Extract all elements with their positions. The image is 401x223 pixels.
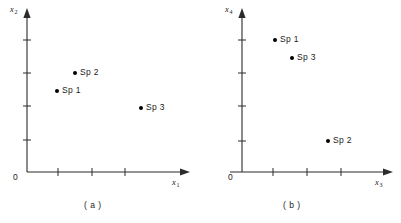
panel-b-axes [200,0,401,200]
data-point-sp1-a [55,89,59,93]
data-point-label-sp3-b: Sp 3 [297,52,316,62]
panel-a-caption: ( a ) [84,200,102,210]
panel-b-x-axis-label: x3 [375,177,382,187]
data-point-sp2-a [73,71,77,75]
panel-b-caption: ( b ) [283,200,301,210]
data-point-label-sp1-a: Sp 1 [62,85,81,95]
data-point-sp1-b [273,38,277,42]
data-point-label-sp3-a: Sp 3 [146,102,165,112]
panel-a-x-axis-label: x1 [172,177,179,187]
panel-a-origin-label: 0 [13,172,18,182]
panel-b-origin-label: 0 [228,172,233,182]
data-point-sp2-b [326,139,330,143]
data-point-sp3-a [139,106,143,110]
two-panel-scatter-figure: x2 x1 0 Sp 1 Sp 2 Sp 3 ( a ) [0,0,401,223]
data-point-sp3-b [290,56,294,60]
panel-b-y-axis-label: x4 [225,4,232,14]
data-point-label-sp1-b: Sp 1 [280,34,299,44]
panel-b: x4 x3 0 Sp 1 Sp 3 Sp 2 ( b ) [200,0,401,223]
panel-a: x2 x1 0 Sp 1 Sp 2 Sp 3 ( a ) [0,0,200,223]
panel-a-axes [0,0,200,200]
panel-a-y-axis-label: x2 [10,4,17,14]
data-point-label-sp2-b: Sp 2 [333,135,352,145]
data-point-label-sp2-a: Sp 2 [80,67,99,77]
